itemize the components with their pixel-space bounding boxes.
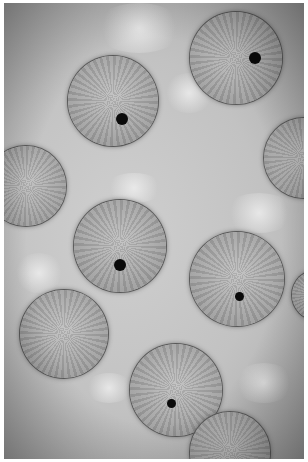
- cell: [292, 270, 304, 320]
- marker-dot: [114, 259, 126, 271]
- background-blob: [224, 193, 294, 233]
- marker-dot: [249, 52, 261, 64]
- background-blob: [14, 253, 64, 293]
- background-blob: [84, 373, 134, 403]
- background-blob: [94, 3, 184, 53]
- cell: [4, 146, 66, 226]
- cell: [190, 12, 282, 104]
- cell: [74, 200, 166, 292]
- background-blob: [234, 363, 294, 403]
- cell: [68, 56, 158, 146]
- cell: [190, 232, 284, 326]
- micrograph: [4, 3, 304, 459]
- background-blob: [104, 173, 164, 203]
- cell: [264, 118, 304, 198]
- cell: [20, 290, 108, 378]
- marker-dot: [116, 113, 128, 125]
- marker-dot: [167, 399, 176, 408]
- marker-dot: [235, 292, 244, 301]
